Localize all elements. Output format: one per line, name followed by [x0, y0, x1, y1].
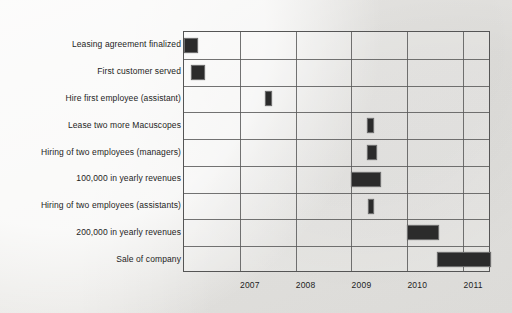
- category-label: Hiring of two employees (managers): [41, 147, 181, 156]
- category-label: 100,000 in yearly revenues: [76, 174, 181, 183]
- x-tick-label: 2010: [407, 280, 427, 290]
- x-tick-label: 2009: [352, 280, 372, 290]
- gantt-chart: Leasing agreement finalizedFirst custome…: [0, 0, 512, 313]
- category-label: First customer served: [97, 67, 181, 76]
- category-label: Leasing agreement finalized: [72, 40, 181, 49]
- x-tick-label: 2011: [464, 280, 483, 290]
- category-label: 200,000 in yearly revenues: [76, 228, 181, 237]
- category-label: Hire first employee (assistant): [65, 94, 181, 103]
- category-label: Lease two more Macuscopes: [68, 120, 181, 129]
- category-label: Hiring of two employees (assistants): [41, 201, 181, 210]
- category-label: Sale of company: [116, 254, 181, 263]
- category-axis-labels: Leasing agreement finalizedFirst custome…: [0, 0, 512, 313]
- x-tick-label: 2008: [296, 280, 316, 290]
- x-tick-label: 2007: [240, 280, 260, 290]
